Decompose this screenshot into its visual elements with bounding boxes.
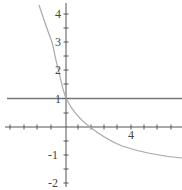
y-label-1: 1	[55, 92, 61, 106]
x-axis	[5, 125, 182, 130]
y-label-minus-1: -1	[48, 148, 58, 162]
chart-plot: 4 3 2 1 -1 -2 4	[0, 0, 182, 190]
y-label-4: 4	[55, 7, 61, 21]
y-label-minus-2: -2	[48, 176, 58, 190]
y-label-2: 2	[55, 63, 61, 77]
x-label-4: 4	[128, 128, 134, 142]
y-label-3: 3	[55, 35, 61, 49]
exponential-curve	[39, 5, 182, 158]
